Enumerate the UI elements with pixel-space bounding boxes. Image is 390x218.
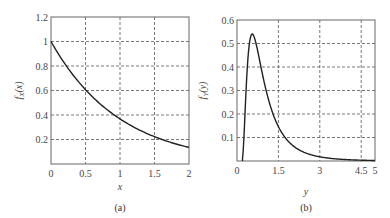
y-tick-label: 0.3 bbox=[222, 85, 235, 96]
x-axis-label: y bbox=[303, 186, 309, 197]
chart-caption: (b) bbox=[300, 202, 312, 214]
x-axis-label: x bbox=[117, 181, 123, 192]
x-tick-label: 2 bbox=[187, 168, 192, 179]
y-axis-label: fX(x) bbox=[13, 81, 26, 100]
y-tick-label: 0.4 bbox=[222, 62, 235, 73]
figure: 00.511.520.20.40.60.811.2xfX(x)(a) 01.53… bbox=[0, 0, 390, 218]
chart-caption: (a) bbox=[114, 202, 125, 214]
y-tick-label: 0.6 bbox=[222, 15, 235, 26]
y-tick-label: 0.4 bbox=[36, 110, 49, 121]
y-axis-label: fY(y) bbox=[197, 81, 210, 99]
y-tick-label: 1.2 bbox=[36, 12, 49, 23]
y-tick-label: 0.2 bbox=[222, 109, 235, 120]
y-tick-label: 0.8 bbox=[36, 61, 49, 72]
x-tick-label: 0 bbox=[49, 168, 54, 179]
x-tick-label: 3 bbox=[317, 165, 322, 176]
chart-a: 00.511.520.20.40.60.811.2xfX(x)(a) bbox=[13, 12, 192, 215]
density-curve bbox=[243, 34, 375, 161]
x-tick-label: 1 bbox=[118, 168, 123, 179]
x-tick-label: 1.5 bbox=[272, 165, 285, 176]
y-tick-label: 0.5 bbox=[222, 38, 235, 49]
x-tick-label: 0 bbox=[235, 165, 240, 176]
x-tick-label: 1.5 bbox=[148, 168, 161, 179]
chart-b: 01.534.550.10.20.30.40.50.6yfY(y)(b) bbox=[197, 15, 378, 215]
x-tick-label: 4.5 bbox=[355, 165, 368, 176]
x-tick-label: 5 bbox=[373, 165, 378, 176]
y-tick-label: 1 bbox=[43, 36, 48, 47]
y-tick-label: 0.2 bbox=[36, 134, 49, 145]
y-tick-label: 0.1 bbox=[222, 132, 235, 143]
y-tick-label: 0.6 bbox=[36, 85, 49, 96]
x-tick-label: 0.5 bbox=[79, 168, 92, 179]
